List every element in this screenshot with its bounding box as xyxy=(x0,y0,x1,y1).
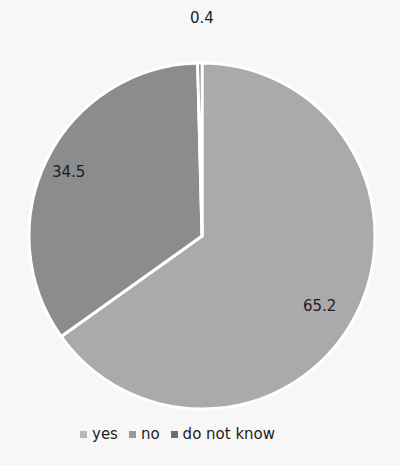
legend-label-do-not-know: do not know xyxy=(183,425,275,443)
legend-item-yes: yes xyxy=(80,425,118,443)
chart-legend: yes no do not know xyxy=(80,425,286,443)
data-label-no: 34.5 xyxy=(52,163,85,181)
legend-swatch-no-icon xyxy=(129,431,136,438)
data-label-do-not-know: 0.4 xyxy=(190,9,214,27)
data-label-yes: 65.2 xyxy=(303,297,336,315)
legend-label-no: no xyxy=(141,425,160,443)
pie-chart xyxy=(0,0,400,465)
legend-swatch-yes-icon xyxy=(80,431,87,438)
legend-item-do-not-know: do not know xyxy=(171,425,275,443)
legend-item-no: no xyxy=(129,425,160,443)
legend-swatch-do-not-know-icon xyxy=(171,431,178,438)
legend-label-yes: yes xyxy=(92,425,118,443)
